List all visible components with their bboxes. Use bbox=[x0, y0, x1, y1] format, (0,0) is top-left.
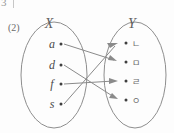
codomain-node-dot bbox=[125, 42, 128, 45]
domain-element-label-f: f bbox=[50, 77, 55, 91]
domain-node-dot bbox=[60, 64, 63, 67]
codomain-element-label-ieung: ㅇ bbox=[132, 96, 140, 106]
domain-node-dot bbox=[60, 43, 63, 46]
mapping-arrow-f-to-rieul bbox=[64, 78, 118, 84]
codomain-element-label-rieul: ㄹ bbox=[132, 77, 140, 87]
domain-element-label-s: s bbox=[50, 97, 55, 111]
codomain-element-label-nieun: ㄴ bbox=[132, 39, 140, 49]
codomain-set-label: Y bbox=[128, 16, 138, 31]
domain-set-label: X bbox=[44, 16, 54, 31]
codomain-element-label-mieum: ㅁ bbox=[132, 58, 140, 68]
codomain-node-dot bbox=[125, 80, 128, 83]
codomain-node-dot bbox=[125, 99, 128, 102]
domain-element-label-d: d bbox=[49, 58, 56, 72]
mapping-diagram: X Y a d f s bbox=[0, 0, 174, 133]
domain-node-dot bbox=[60, 83, 63, 86]
domain-element-label-a: a bbox=[49, 37, 55, 51]
codomain-set-ellipse bbox=[104, 22, 166, 128]
domain-node-dot bbox=[60, 103, 63, 106]
figure-container: 3 (2) X Y bbox=[0, 0, 174, 133]
codomain-node-dot bbox=[125, 61, 128, 64]
